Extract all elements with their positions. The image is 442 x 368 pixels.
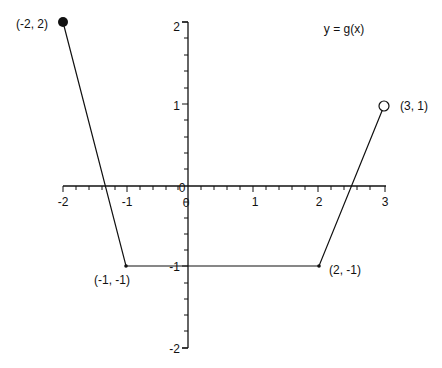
x-tick-label: 2: [316, 195, 323, 209]
vertex-point: [317, 264, 321, 268]
point-label: (2, -1): [329, 263, 361, 277]
x-tick-label: -2: [58, 195, 69, 209]
y-tick-label: 1: [173, 99, 180, 113]
point-label: (3, 1): [400, 99, 428, 113]
x-ticks: [63, 186, 385, 192]
x-tick-label: 3: [382, 195, 389, 209]
point-label: (-2, 2): [16, 17, 48, 31]
x-tick-label: 0: [179, 181, 186, 195]
y-tick-label: -1: [169, 260, 180, 274]
open-endpoint: [379, 101, 389, 111]
graph-line: [63, 22, 384, 266]
function-graph: -2 -1 0 1 2 3 2 1 0 -1 -2 y = g(x) (-2, …: [0, 0, 442, 368]
chart-title: y = g(x): [324, 22, 364, 36]
vertex-point: [124, 264, 128, 268]
closed-endpoint: [58, 17, 68, 27]
y-tick-label: 2: [173, 20, 180, 34]
y-tick-label: -2: [169, 342, 180, 356]
y-tick-label: 0: [183, 196, 190, 210]
x-tick-label: 1: [252, 195, 259, 209]
x-tick-label: -1: [122, 195, 133, 209]
point-label: (-1, -1): [94, 273, 130, 287]
